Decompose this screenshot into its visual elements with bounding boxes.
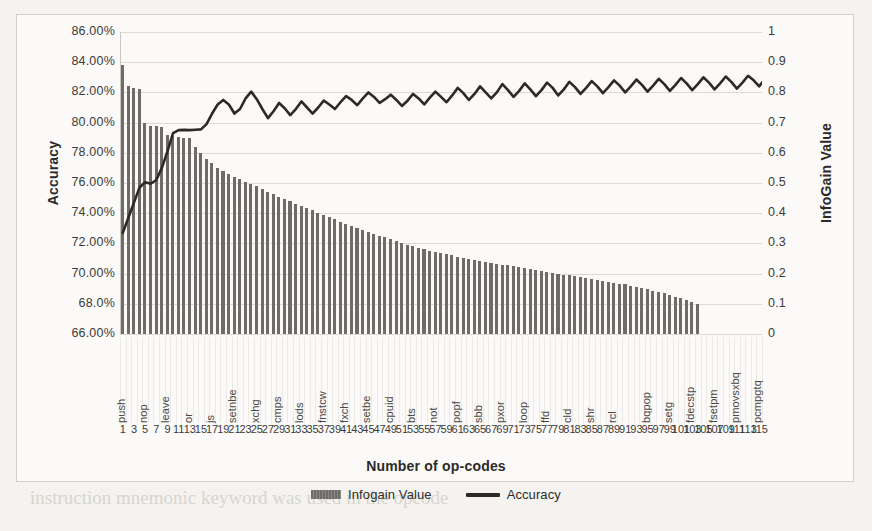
y-tick-right: 0.1 <box>768 296 786 310</box>
x-tick-number: 5 <box>142 423 148 435</box>
y-tick-right: 0.6 <box>768 145 786 159</box>
opcode-label: or <box>182 413 194 423</box>
y-tick-left: 78.00% <box>37 145 115 159</box>
opcode-label: push <box>115 399 127 423</box>
y-tick-right: 0.2 <box>768 266 786 280</box>
legend-label-accuracy: Accuracy <box>507 487 561 502</box>
x-tick-number: 115 <box>750 423 768 435</box>
opcode-label: bqpop <box>640 392 652 423</box>
opcode-label: fdecstp <box>684 387 696 423</box>
y-tick-right: 0.7 <box>768 115 786 129</box>
opcode-label: loop <box>517 402 529 423</box>
x-tick-number: 9 <box>164 423 170 435</box>
y-axis-left-ticks: 86.00%84.00%82.00%80.00%78.00%76.00%74.0… <box>37 32 115 334</box>
opcode-label: cld <box>561 409 573 423</box>
opcode-label: bts <box>405 408 417 423</box>
y-tick-right: 0.5 <box>768 175 786 189</box>
x-tick-number: 11 <box>173 423 184 435</box>
legend-label-infogain: Infogain Value <box>348 487 432 502</box>
x-tick-number: 7 <box>153 423 159 435</box>
opcode-label: leave <box>159 396 171 423</box>
opcode-label: fnstcw <box>316 391 328 423</box>
opcode-label: setg <box>662 402 674 423</box>
opcode-label: cmps <box>271 396 283 423</box>
chart-legend: Infogain Value Accuracy <box>17 487 855 502</box>
opcode-label: pxor <box>494 401 506 423</box>
legend-item-accuracy: Accuracy <box>466 487 561 502</box>
opcode-label: not <box>427 407 439 423</box>
y-tick-left: 70.00% <box>37 266 115 280</box>
chart-frame: Accuracy InfoGain Value 86.00%84.00%82.0… <box>16 14 854 482</box>
y-tick-right: 0.8 <box>768 84 786 98</box>
opcode-label: fsetpm <box>707 389 719 423</box>
opcode-label: ffd <box>539 411 551 423</box>
y-axis-right-ticks: 10.90.80.70.60.50.40.30.20.10 <box>768 32 808 334</box>
opcode-label: setnbe <box>226 389 238 423</box>
x-tick-number: 1 <box>120 423 126 435</box>
y-tick-right: 0 <box>768 326 775 340</box>
opcode-label: sbb <box>472 405 484 423</box>
opcode-label: js <box>204 415 216 423</box>
y-tick-left: 84.00% <box>37 54 115 68</box>
y-axis-right-title: InfoGain Value <box>818 98 834 248</box>
x-axis-number-labels: 1357911131517192123252729313335373941434… <box>120 423 762 443</box>
bar-swatch-icon <box>311 490 341 499</box>
x-axis-opcode-labels: pushnopleaveorjssetnbexchgcmpslodsfnstcw… <box>120 337 762 423</box>
y-tick-right: 0.9 <box>768 54 786 68</box>
line-swatch-icon <box>466 493 500 497</box>
opcode-label: popf <box>450 401 462 423</box>
y-tick-left: 72.00% <box>37 235 115 249</box>
y-tick-right: 0.3 <box>768 235 786 249</box>
y-tick-left: 66.00% <box>37 326 115 340</box>
opcode-label: lods <box>293 402 305 423</box>
gridline <box>120 334 762 335</box>
opcode-label: nop <box>137 404 149 423</box>
y-tick-left: 80.00% <box>37 115 115 129</box>
y-tick-right: 0.4 <box>768 205 786 219</box>
opcode-label: shr <box>584 407 596 423</box>
legend-item-infogain: Infogain Value <box>311 487 432 502</box>
opcode-label: cpuid <box>383 396 395 423</box>
x-axis-title: Number of op-codes <box>17 458 855 474</box>
y-tick-right: 1 <box>768 24 775 38</box>
y-tick-left: 86.00% <box>37 24 115 38</box>
opcode-label: xchg <box>249 399 261 423</box>
opcode-label: rcl <box>606 411 618 423</box>
opcode-label: pcmpgtq <box>751 380 763 423</box>
plot-area <box>120 32 762 334</box>
y-tick-left: 82.00% <box>37 84 115 98</box>
y-tick-left: 76.00% <box>37 175 115 189</box>
y-tick-left: 68.0% <box>37 296 115 310</box>
opcode-label: setbe <box>360 396 372 423</box>
opcode-label: pmovsxbq <box>729 372 741 423</box>
x-tick-number: 3 <box>131 423 137 435</box>
opcode-label: fxch <box>338 402 350 423</box>
y-tick-left: 74.00% <box>37 205 115 219</box>
accuracy-line <box>120 32 762 334</box>
